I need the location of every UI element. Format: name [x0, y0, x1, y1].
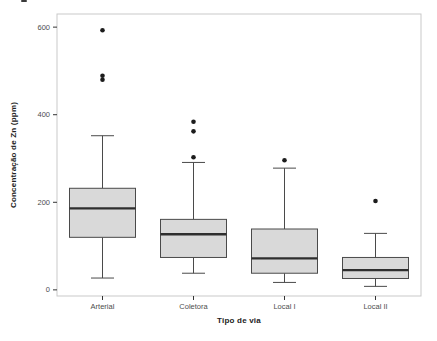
- outlier-point: [100, 77, 105, 82]
- x-axis-tick-label: Local I: [273, 302, 295, 311]
- iqr-box: [70, 188, 136, 237]
- y-axis-tick-label: 200: [37, 198, 50, 207]
- boxplot-chart: 0200400600ArterialColetoraLocal ILocal I…: [0, 0, 437, 341]
- y-axis-tick-label: 0: [46, 285, 50, 294]
- x-axis-tick-label: Coletora: [179, 302, 208, 311]
- plot-panel-border: [57, 14, 421, 296]
- y-axis-tick-label: 600: [37, 23, 50, 32]
- outlier-point: [282, 158, 287, 163]
- boxplot-figure: 0200400600ArterialColetoraLocal ILocal I…: [0, 0, 437, 341]
- iqr-box: [252, 229, 318, 273]
- x-axis-title: Tipo de via: [57, 316, 421, 325]
- outlier-point: [191, 119, 196, 124]
- x-axis-tick-label: Arterial: [91, 302, 115, 311]
- outlier-point: [100, 28, 105, 33]
- iqr-box: [343, 257, 409, 278]
- iqr-box: [161, 219, 227, 257]
- outlier-point: [373, 199, 378, 204]
- outlier-point: [191, 129, 196, 134]
- outlier-point: [191, 155, 196, 160]
- x-axis-tick-label: Local II: [363, 302, 387, 311]
- outlier-point: [100, 73, 105, 78]
- y-axis-title: Concentração de Zn (ppm): [9, 102, 18, 208]
- y-axis-tick-label: 400: [37, 110, 50, 119]
